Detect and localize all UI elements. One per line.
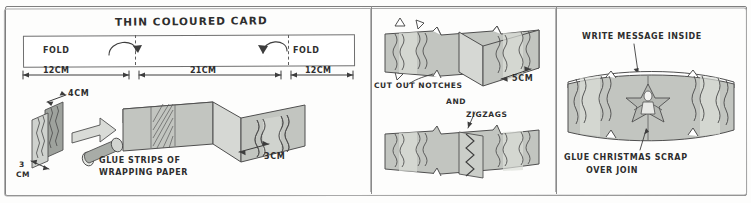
- caret-icons-top: [395, 18, 424, 29]
- transform-arrow: [72, 118, 116, 143]
- glue-instruction-line1: GLUE STRIPS OF: [99, 156, 181, 165]
- fold-arrow-left-head: [133, 45, 142, 53]
- write-message-note: WRITE MESSAGE INSIDE: [582, 32, 702, 41]
- glue-scrap-line2: OVER JOIN: [586, 166, 638, 175]
- strip-height-label-line2: CM: [16, 171, 30, 180]
- fold-arrow-left-curve: [109, 42, 136, 55]
- middle-dimension-label: 5CM: [512, 74, 533, 83]
- cut-instruction-line3: ZIGZAGS: [466, 111, 507, 120]
- dimension-label-1: 21CM: [190, 66, 216, 75]
- strip-width-leader: [47, 95, 66, 102]
- dimension-label-0: 12CM: [43, 66, 69, 75]
- strip-height-label-line1: 3: [19, 161, 25, 170]
- cut-instruction-line2: AND: [446, 98, 466, 107]
- dimension-label-2: 12CM: [305, 66, 331, 75]
- fold-arrow-right-head: [258, 45, 268, 54]
- band-with-zigzags-lower: [385, 125, 539, 178]
- panel-left-vectors: [5, 6, 371, 194]
- glue-instruction-line2: WRAPPING PAPER: [99, 168, 188, 177]
- glue-scrap-line1: GLUE CHRISTMAS SCRAP: [564, 153, 688, 162]
- wrapping-paper-strip-stack: [32, 102, 63, 168]
- panel-left: THIN COLOURED CARD FOLD FOLD: [5, 6, 371, 194]
- panel-right: WRITE MESSAGE INSIDE GLUE CHRISTMAS SCRA…: [556, 6, 745, 194]
- strip-width-label: 4CM: [68, 89, 89, 98]
- dimension-rules: [23, 71, 353, 79]
- band-depth-label: 3CM: [264, 152, 285, 161]
- panel-middle: CUT OUT NOTCHES AND ZIGZAGS 5CM: [371, 6, 556, 194]
- cut-instruction-line1: CUT OUT NOTCHES: [374, 82, 463, 91]
- message-leader: [634, 44, 638, 72]
- finished-band: [568, 70, 734, 141]
- instruction-sheet: THIN COLOURED CARD FOLD FOLD: [0, 0, 751, 203]
